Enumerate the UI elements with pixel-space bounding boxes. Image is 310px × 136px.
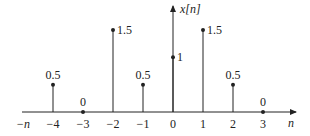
stems: 0.5−40−31.5−20.5−1101.510.5203 — [46, 23, 267, 131]
value-label: 0.5 — [46, 68, 61, 82]
value-label: 1.5 — [207, 23, 222, 37]
x-negative-label: −n — [16, 117, 30, 131]
tick-label: −1 — [137, 117, 150, 131]
value-label: 0.5 — [136, 68, 151, 82]
y-axis-label: x[n] — [179, 2, 201, 16]
tick-label: 1 — [200, 117, 206, 131]
stem-plot: x[n] n −n 0.5−40−31.5−20.5−1101.510.5203 — [0, 0, 310, 136]
tick-label: −2 — [107, 117, 120, 131]
tick-label: 2 — [230, 117, 236, 131]
tick-label: −4 — [47, 117, 60, 131]
tick-label: 3 — [260, 117, 266, 131]
stem-marker — [141, 83, 145, 87]
stem-marker — [81, 110, 85, 114]
stem-marker — [171, 55, 175, 59]
tick-label: −3 — [77, 117, 90, 131]
stem-marker — [231, 83, 235, 87]
stem-marker — [111, 28, 115, 32]
value-label: 1.5 — [117, 23, 132, 37]
x-axis-label: n — [288, 116, 294, 130]
stem-marker — [261, 110, 265, 114]
value-label: 0 — [80, 95, 86, 109]
value-label: 0.5 — [226, 68, 241, 82]
axes: x[n] n −n — [16, 2, 296, 131]
stem-marker — [51, 83, 55, 87]
value-label: 0 — [260, 95, 266, 109]
value-label: 1 — [177, 50, 183, 64]
stem-marker — [201, 28, 205, 32]
tick-label: 0 — [170, 117, 176, 131]
